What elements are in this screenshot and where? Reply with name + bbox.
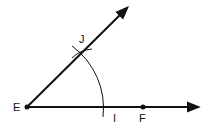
- angle-construction-diagram: [0, 0, 202, 132]
- label-i: I: [113, 113, 116, 124]
- label-f: F: [139, 113, 146, 124]
- label-e: E: [13, 102, 20, 113]
- point-e: [25, 105, 30, 110]
- ray-ej: [27, 8, 127, 107]
- label-j: J: [79, 34, 85, 45]
- point-f: [141, 105, 146, 110]
